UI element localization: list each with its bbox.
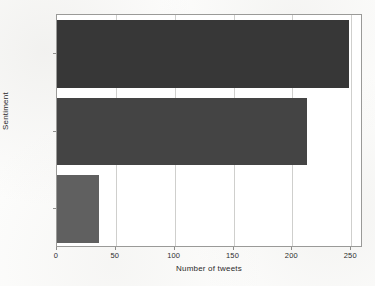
x-tick-label: 200 — [285, 251, 298, 260]
y-axis-title: Sentiment — [1, 92, 10, 130]
x-tickmark — [56, 247, 57, 250]
bar-negative — [57, 175, 99, 243]
x-tick-label: 100 — [167, 251, 180, 260]
x-axis-title: Number of tweets — [56, 264, 362, 273]
x-tick-label: 150 — [226, 251, 239, 260]
y-tickmark — [53, 208, 56, 209]
y-tickmark — [53, 53, 56, 54]
x-tickmark — [233, 247, 234, 250]
bar-positive — [57, 98, 307, 166]
x-tickmark — [115, 247, 116, 250]
bar-neutral — [57, 20, 349, 88]
gridline — [351, 15, 352, 246]
bar-chart: 050100150200250 neutralpositivenegative … — [0, 0, 375, 286]
y-tickmark — [53, 131, 56, 132]
x-tick-label: 250 — [344, 251, 357, 260]
x-tickmark — [291, 247, 292, 250]
x-tick-label: 0 — [54, 251, 58, 260]
x-tickmark — [350, 247, 351, 250]
plot-area — [56, 14, 362, 247]
x-tickmark — [174, 247, 175, 250]
x-tick-label: 50 — [110, 251, 119, 260]
